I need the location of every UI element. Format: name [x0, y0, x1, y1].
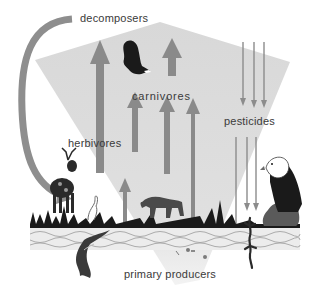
water-band — [30, 228, 300, 250]
primary-producers-label: primary producers — [124, 268, 216, 280]
small-animal-icon — [88, 196, 98, 220]
diagram-canvas — [0, 0, 314, 298]
decomposer-arc-icon — [22, 19, 72, 204]
pesticides-label: pesticides — [224, 115, 275, 127]
decomposers-label: decomposers — [80, 12, 148, 24]
carnivores-label: carnivores — [132, 90, 191, 102]
deer-icon — [50, 148, 77, 213]
bald-eagle-icon — [260, 157, 302, 226]
herbivores-label: herbivores — [68, 137, 121, 149]
food-chain-diagram: decomposers carnivores herbivores pestic… — [0, 0, 314, 298]
